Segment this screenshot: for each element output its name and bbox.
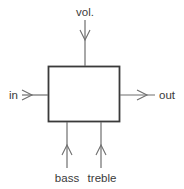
port-bass: bass	[55, 122, 80, 184]
amplifier-block-diagram: vol. in out bass treble	[0, 0, 184, 189]
port-out: out	[120, 89, 176, 101]
bass-label: bass	[55, 172, 80, 184]
out-label: out	[159, 89, 176, 101]
port-treble: treble	[88, 122, 117, 184]
amplifier-block	[49, 67, 120, 122]
treble-label: treble	[88, 172, 117, 184]
in-label: in	[9, 89, 18, 101]
vol-label: vol.	[76, 6, 94, 18]
port-in: in	[9, 89, 48, 101]
port-vol: vol.	[76, 6, 94, 66]
